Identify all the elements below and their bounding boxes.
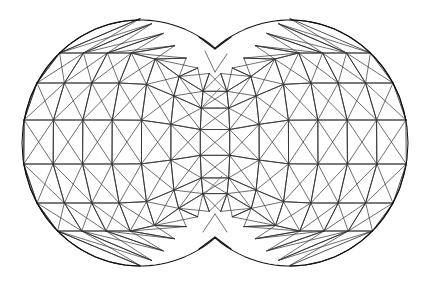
figure-canvas bbox=[0, 0, 432, 284]
wireframe-mesh-svg bbox=[0, 0, 432, 284]
